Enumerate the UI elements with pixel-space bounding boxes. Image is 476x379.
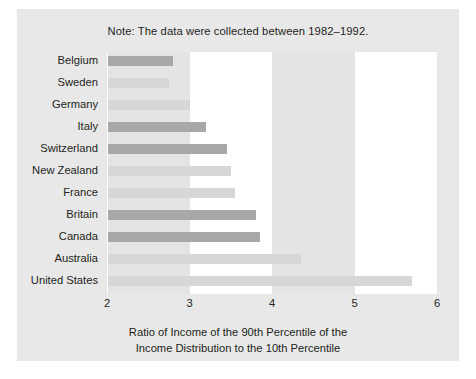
- bar: [107, 56, 173, 66]
- category-label: New Zealand: [32, 162, 98, 178]
- category-label: Australia: [54, 250, 98, 266]
- bar-row: Canada: [107, 228, 437, 250]
- bar: [107, 232, 260, 242]
- category-label: Canada: [59, 228, 98, 244]
- bar: [107, 100, 190, 110]
- category-label: France: [63, 184, 98, 200]
- bar: [107, 276, 412, 286]
- x-tick-label: 6: [434, 297, 440, 309]
- category-label: United States: [31, 272, 98, 288]
- bar: [107, 254, 301, 264]
- bar-row: New Zealand: [107, 162, 437, 184]
- x-tick-label: 4: [269, 297, 275, 309]
- bar: [107, 122, 206, 132]
- x-axis-title-line-2: Income Distribution to the 10th Percenti…: [17, 341, 459, 357]
- bar-row: Belgium: [107, 52, 437, 74]
- bar-row: Switzerland: [107, 140, 437, 162]
- category-label: Germany: [52, 96, 98, 112]
- category-label: Sweden: [58, 74, 98, 90]
- bar: [107, 210, 256, 220]
- bar-rows: BelgiumSwedenGermanyItalySwitzerlandNew …: [107, 52, 437, 294]
- x-tick-label: 2: [104, 297, 110, 309]
- bar-row: United States: [107, 272, 437, 294]
- x-axis-title-line-1: Ratio of Income of the 90th Percentile o…: [17, 325, 459, 341]
- category-label: Italy: [77, 118, 98, 134]
- bar-row: Italy: [107, 118, 437, 140]
- bar: [107, 188, 235, 198]
- y-axis-line: [107, 52, 108, 294]
- bar-row: France: [107, 184, 437, 206]
- bar-row: Australia: [107, 250, 437, 272]
- bar: [107, 166, 231, 176]
- bar: [107, 144, 227, 154]
- bar-row: Britain: [107, 206, 437, 228]
- x-axis-title: Ratio of Income of the 90th Percentile o…: [17, 325, 459, 356]
- plot-area: BelgiumSwedenGermanyItalySwitzerlandNew …: [107, 52, 437, 294]
- bar-row: Germany: [107, 96, 437, 118]
- x-tick-label: 3: [186, 297, 192, 309]
- bar: [107, 78, 169, 88]
- bar-row: Sweden: [107, 74, 437, 96]
- chart-figure: Note: The data were collected between 19…: [17, 9, 459, 361]
- x-axis-ticks: 23456: [107, 297, 437, 315]
- x-tick-label: 5: [351, 297, 357, 309]
- category-label: Britain: [66, 206, 98, 222]
- category-label: Belgium: [58, 52, 98, 68]
- chart-note: Note: The data were collected between 19…: [17, 25, 459, 37]
- category-label: Switzerland: [40, 140, 98, 156]
